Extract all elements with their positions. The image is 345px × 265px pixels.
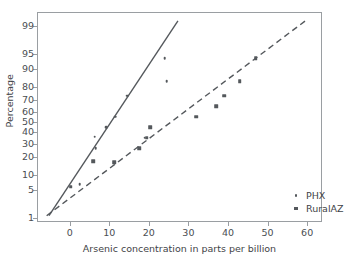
- x-tick-mark: [188, 221, 189, 226]
- x-tick-mark: [109, 221, 110, 226]
- x-tick-mark: [268, 221, 269, 226]
- x-tick-label: 40: [222, 228, 234, 238]
- plot-frame: 151020304050607080909599 0102030405060 P…: [37, 12, 322, 222]
- y-axis-title: Percentage: [5, 61, 15, 141]
- fit-line-ruralaz: [47, 21, 306, 216]
- y-tick-label: 1: [28, 213, 34, 223]
- data-point-ruralaz: [113, 160, 117, 164]
- x-tick-label: 10: [103, 228, 115, 238]
- legend-label-phx: PHX: [306, 191, 325, 201]
- data-point-phx: [105, 126, 108, 129]
- y-tick-label: 60: [22, 107, 34, 117]
- x-tick-mark: [149, 221, 150, 226]
- x-tick-label: 0: [67, 228, 73, 238]
- probability-plot-screenshot: Percentage 151020304050607080909599 0102…: [0, 0, 345, 265]
- legend-marker-square-icon: [291, 207, 301, 211]
- y-tick-label: 90: [22, 64, 34, 74]
- data-point-ruralaz: [145, 136, 149, 140]
- y-tick-label: 5: [28, 185, 34, 195]
- x-tick-mark: [70, 221, 71, 226]
- data-point-ruralaz: [69, 185, 73, 189]
- chart-data-layer: [38, 13, 321, 221]
- data-point-ruralaz: [148, 125, 152, 129]
- y-tick-label: 50: [22, 117, 34, 127]
- data-point-phx: [165, 80, 168, 83]
- data-point-ruralaz: [92, 159, 96, 163]
- data-point-phx: [126, 94, 129, 97]
- y-tick-label: 40: [22, 128, 34, 138]
- x-tick-label: 60: [301, 228, 313, 238]
- data-point-ruralaz: [137, 147, 141, 151]
- data-point-ruralaz: [238, 79, 242, 83]
- y-tick-label: 10: [22, 170, 34, 180]
- legend-item-ruralaz: RuralAZ: [291, 202, 344, 215]
- legend-item-phx: PHX: [291, 189, 344, 202]
- legend-label-ruralaz: RuralAZ: [306, 204, 344, 214]
- y-tick-label: 20: [22, 152, 34, 162]
- y-tick-label: 80: [22, 83, 34, 93]
- data-point-phx: [163, 57, 166, 60]
- data-point-phx: [78, 183, 81, 186]
- legend-marker-circle-icon: [291, 194, 301, 197]
- data-point-ruralaz: [254, 56, 258, 60]
- data-point-ruralaz: [222, 94, 226, 98]
- data-point-phx: [114, 116, 117, 119]
- data-point-phx: [93, 135, 96, 138]
- x-tick-mark: [228, 221, 229, 226]
- data-point-ruralaz: [195, 115, 199, 119]
- y-tick-label: 95: [22, 50, 34, 60]
- y-tick-label: 99: [22, 22, 34, 32]
- x-tick-label: 20: [143, 228, 155, 238]
- y-tick-label: 30: [22, 139, 34, 149]
- x-tick-label: 50: [262, 228, 274, 238]
- chart-legend: PHX RuralAZ: [291, 189, 344, 215]
- x-tick-mark: [307, 221, 308, 226]
- y-tick-label: 70: [22, 96, 34, 106]
- x-axis-title: Arsenic concentration in parts per billi…: [37, 244, 322, 254]
- data-point-phx: [94, 147, 97, 150]
- data-point-ruralaz: [214, 104, 218, 108]
- x-tick-label: 30: [182, 228, 194, 238]
